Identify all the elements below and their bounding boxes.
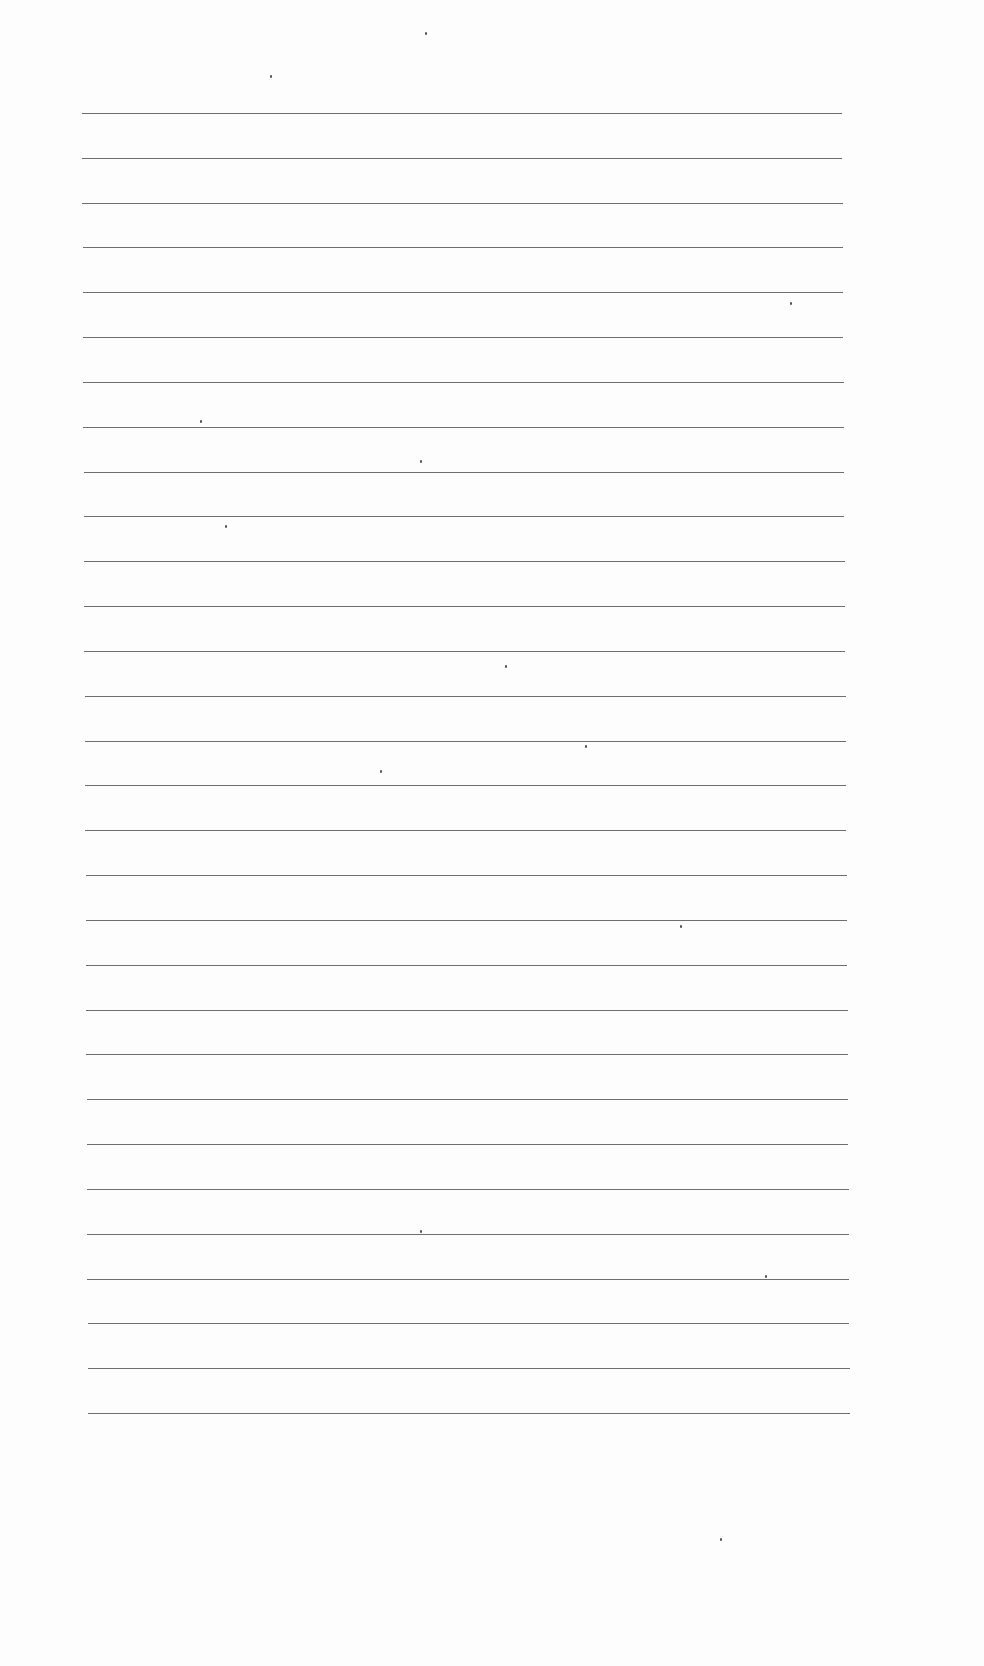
paper-speck (380, 770, 382, 773)
ruled-line (86, 875, 847, 876)
ruled-line (83, 382, 843, 383)
ruled-line (88, 1368, 850, 1369)
ruled-line (88, 1323, 850, 1324)
ruled-line (83, 247, 843, 248)
paper-speck (225, 525, 227, 528)
ruled-line (85, 785, 846, 786)
ruled-line (83, 337, 843, 338)
ruled-line (83, 292, 843, 293)
ruled-line (86, 1010, 847, 1011)
ruled-line (84, 651, 845, 652)
ruled-line (87, 1279, 849, 1280)
ruled-line (88, 1413, 850, 1414)
ruled-line (87, 1234, 849, 1235)
ruled-line (87, 1144, 849, 1145)
paper-speck (200, 420, 202, 423)
ruled-line (82, 113, 842, 114)
paper-speck (270, 75, 272, 78)
ruled-line (83, 427, 843, 428)
ruled-line (87, 1099, 849, 1100)
ruled-line (86, 1054, 847, 1055)
paper-speck (680, 925, 682, 928)
ruled-line (85, 741, 846, 742)
ruled-line (85, 696, 846, 697)
paper-speck (425, 32, 427, 35)
paper-speck (720, 1538, 722, 1541)
paper-speck (420, 460, 422, 463)
ruled-line (84, 472, 845, 473)
ruled-line (87, 1189, 849, 1190)
paper-speck (420, 1230, 422, 1233)
ruled-line (84, 561, 845, 562)
ruled-line (86, 920, 847, 921)
ruled-line (85, 830, 846, 831)
ruled-line (84, 516, 845, 517)
ruled-line (82, 158, 842, 159)
paper-speck (505, 665, 507, 668)
paper-speck (790, 302, 792, 305)
ruled-line (82, 203, 842, 204)
ruled-line (86, 965, 847, 966)
paper-speck (585, 745, 587, 748)
paper-speck (765, 1275, 767, 1278)
ruled-line (84, 606, 845, 607)
